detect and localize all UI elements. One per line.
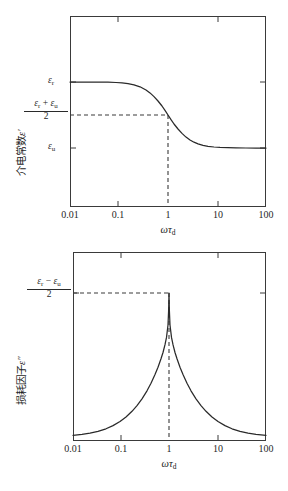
- xtick-label-10: 10: [198, 209, 238, 220]
- xtick-label-0.01: 0.01: [50, 209, 90, 220]
- curve-layer-dielectric-constant: [0, 0, 288, 245]
- fraction-numerator-peak: εr − εu: [27, 277, 71, 288]
- ylabel-midpoint-fraction: εr + εu 2: [24, 99, 68, 122]
- xtick-label-0.1-bottom: 0.1: [101, 443, 141, 454]
- xtick-label-0.1: 0.1: [98, 209, 138, 220]
- ylabel-eps-u: εu: [48, 141, 55, 153]
- ylabel-eps-r: εr: [48, 75, 54, 87]
- fraction-denominator: 2: [24, 112, 68, 122]
- panel-loss-factor: 损耗因子ε″ εr − εu 2 0.01 0.1 1 10 100 ωτd: [0, 245, 288, 491]
- y-axis-title-dielectric-constant: 介电常数ε′: [13, 130, 28, 176]
- xtick-label-100: 100: [246, 209, 286, 220]
- y-axis-title-loss-factor: 损耗因子ε″: [13, 356, 28, 405]
- panel-dielectric-constant: 介电常数ε′ εr εu εr + εu 2 0.01 0.1 1 10 100…: [0, 0, 288, 245]
- xtick-label-100-bottom: 100: [246, 443, 286, 454]
- x-axis-title-bottom: ωτd: [139, 458, 199, 471]
- x-axis-title-top: ωτd: [138, 224, 198, 237]
- xtick-label-0.01-bottom: 0.01: [53, 443, 93, 454]
- fraction-denominator-peak: 2: [27, 290, 71, 300]
- xtick-label-10-bottom: 10: [198, 443, 238, 454]
- debye-relaxation-figure: 介电常数ε′ εr εu εr + εu 2 0.01 0.1 1 10 100…: [0, 0, 288, 491]
- fraction-numerator: εr + εu: [24, 99, 68, 110]
- xtick-label-1-bottom: 1: [149, 443, 189, 454]
- xtick-label-1: 1: [148, 209, 188, 220]
- ylabel-peak-fraction: εr − εu 2: [27, 277, 71, 300]
